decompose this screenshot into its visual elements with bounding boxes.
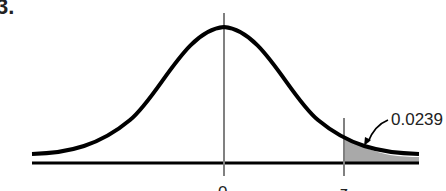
annotation-arrow xyxy=(368,120,388,142)
normal-curve-diagram: 0.0239 0 z xyxy=(0,0,446,191)
z-tick-label: z xyxy=(338,183,348,191)
mean-tick-label: 0 xyxy=(218,183,227,191)
tail-area-label: 0.0239 xyxy=(391,110,443,129)
normal-curve xyxy=(32,27,419,154)
